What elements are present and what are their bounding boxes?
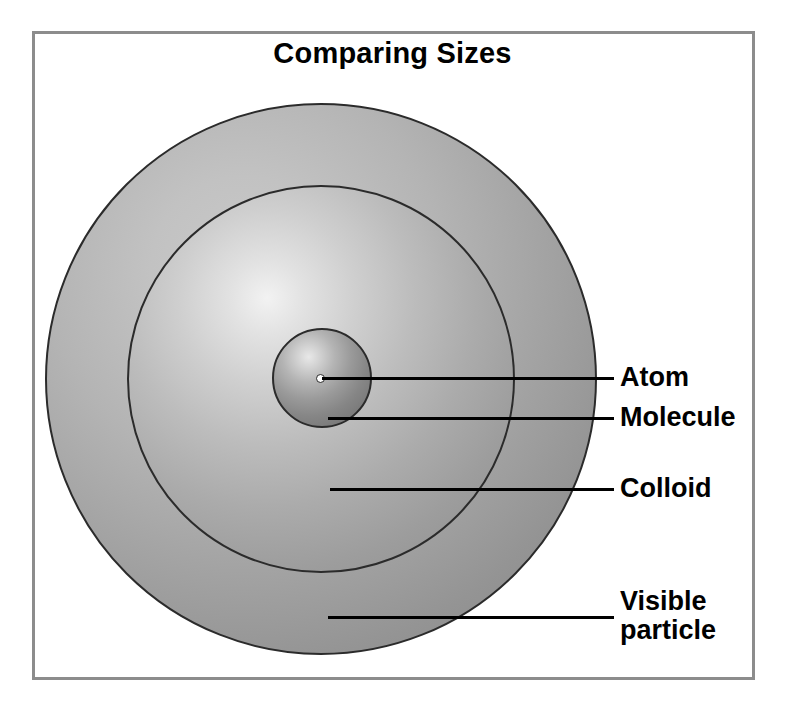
callout-label-colloid: Colloid <box>620 474 711 503</box>
leader-line-molecule <box>328 417 614 420</box>
callout-label-molecule: Molecule <box>620 403 736 432</box>
leader-line-visible-particle <box>328 616 614 619</box>
leader-line-atom <box>322 377 614 380</box>
callout-label-atom: Atom <box>620 363 689 392</box>
comparing-sizes-figure: Comparing Sizes Atom Molecule Colloid Vi… <box>0 0 785 708</box>
callout-label-visible-particle: Visible particle <box>620 587 716 645</box>
leader-line-colloid <box>330 488 614 491</box>
spheres-stage: Atom Molecule Colloid Visible particle <box>0 0 785 708</box>
